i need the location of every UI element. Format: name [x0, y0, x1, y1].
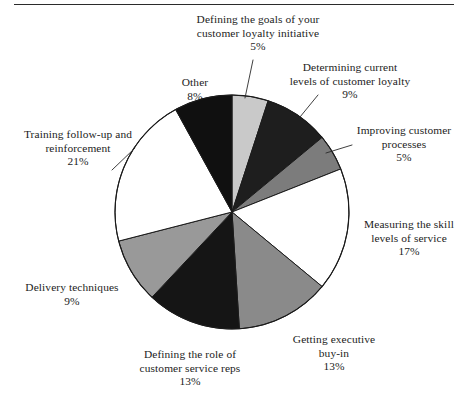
- pie-label-other-value: 8%: [160, 90, 230, 104]
- pie-label-getting-executive-buyin-line2: buy-in: [276, 347, 392, 361]
- pie-label-getting-executive-buyin: Getting executive buy-in 13%: [276, 333, 392, 374]
- pie-chart-canvas: [0, 0, 466, 398]
- pie-label-delivery-techniques-line1: Delivery techniques: [10, 281, 134, 295]
- leader-line-defining-goals: [245, 60, 253, 98]
- pie-label-delivery-techniques-value: 9%: [10, 295, 134, 309]
- pie-label-delivery-techniques: Delivery techniques 9%: [10, 281, 134, 308]
- pie-label-getting-executive-buyin-line1: Getting executive: [276, 333, 392, 347]
- pie-label-improving-processes-value: 5%: [342, 151, 466, 165]
- pie-label-improving-processes-line1: Improving customer: [342, 124, 466, 138]
- pie-label-other-line1: Other: [160, 76, 230, 90]
- pie-label-defining-role-line2: customer service reps: [104, 362, 276, 376]
- pie-label-training-followup: Training follow-up and reinforcement 21%: [2, 128, 154, 169]
- pie-chart-figure: Defining the goals of your customer loya…: [0, 0, 466, 398]
- pie-label-improving-processes: Improving customer processes 5%: [342, 124, 466, 165]
- pie-label-determining-levels: Determining current levels of customer l…: [262, 61, 438, 102]
- pie-label-improving-processes-line2: processes: [342, 138, 466, 152]
- pie-label-measuring-skill-line2: levels of service: [352, 232, 466, 246]
- pie-label-determining-levels-line2: levels of customer loyalty: [262, 75, 438, 89]
- pie-label-measuring-skill: Measuring the skill levels of service 17…: [352, 218, 466, 259]
- pie-label-determining-levels-value: 9%: [262, 88, 438, 102]
- pie-label-measuring-skill-value: 17%: [352, 245, 466, 259]
- pie-label-measuring-skill-line1: Measuring the skill: [352, 218, 466, 232]
- pie-label-other: Other 8%: [160, 76, 230, 103]
- pie-label-defining-role-line1: Defining the role of: [104, 348, 276, 362]
- pie-label-defining-goals-value: 5%: [176, 40, 340, 54]
- pie-label-training-followup-line2: reinforcement: [2, 142, 154, 156]
- pie-label-training-followup-line1: Training follow-up and: [2, 128, 154, 142]
- pie-label-defining-role-value: 13%: [104, 375, 276, 389]
- pie-label-defining-goals: Defining the goals of your customer loya…: [176, 13, 340, 54]
- pie-label-defining-goals-line2: customer loyalty initiative: [176, 27, 340, 41]
- pie-label-training-followup-value: 21%: [2, 155, 154, 169]
- pie-label-defining-goals-line1: Defining the goals of your: [176, 13, 340, 27]
- pie-label-defining-role: Defining the role of customer service re…: [104, 348, 276, 389]
- pie-label-getting-executive-buyin-value: 13%: [276, 360, 392, 374]
- pie-label-determining-levels-line1: Determining current: [262, 61, 438, 75]
